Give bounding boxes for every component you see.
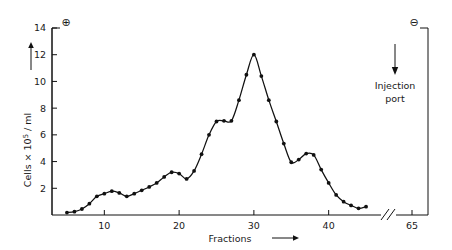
y-axis-title-prefix: Cells × 10	[22, 138, 33, 187]
cathode-symbol-group: ⊖	[409, 16, 418, 29]
data-point	[274, 120, 278, 124]
data-point	[267, 98, 271, 102]
data-point	[357, 206, 361, 210]
data-point	[364, 205, 368, 209]
y-tick-label: 8	[40, 103, 46, 114]
y-tick-label: 12	[34, 49, 46, 60]
data-point	[185, 177, 189, 181]
data-point	[237, 98, 241, 102]
y-tick-label: 14	[34, 22, 46, 33]
data-point	[342, 200, 346, 204]
data-point	[200, 152, 204, 156]
x-tick-label: 30	[248, 220, 260, 231]
data-point	[132, 192, 136, 196]
injection-port-label-line2: port	[385, 93, 405, 104]
data-point	[289, 160, 293, 164]
data-point	[319, 168, 323, 172]
data-point	[140, 188, 144, 192]
x-axis-title: Fractions	[209, 233, 252, 244]
data-point	[252, 53, 256, 57]
y-tick-label: 4	[40, 156, 46, 167]
data-point	[155, 181, 159, 185]
data-point	[110, 189, 114, 193]
figure-container: 2468101214 1020304065 Cells × 105 / ml F…	[0, 0, 452, 250]
data-point	[170, 170, 174, 174]
data-point	[230, 119, 234, 123]
x-tick-label-break: 65	[406, 220, 418, 231]
data-point	[125, 194, 129, 198]
anode-symbol-group: ⊕	[61, 16, 70, 29]
data-point	[259, 74, 263, 78]
data-point	[334, 193, 338, 197]
data-point	[222, 119, 226, 123]
data-point	[245, 73, 249, 77]
y-tick-label: 6	[40, 129, 46, 140]
data-point	[95, 194, 99, 198]
cell-elution-profile-chart: 2468101214 1020304065 Cells × 105 / ml F…	[0, 0, 452, 250]
x-tick-label: 40	[323, 220, 335, 231]
data-point	[80, 207, 84, 211]
data-point	[327, 181, 331, 185]
cathode-symbol: ⊖	[409, 16, 418, 29]
data-point	[87, 202, 91, 206]
data-point	[215, 120, 219, 124]
data-point	[207, 133, 211, 137]
data-point	[312, 153, 316, 157]
data-point	[102, 192, 106, 196]
y-tick-label: 2	[40, 183, 46, 194]
data-point	[192, 169, 196, 173]
data-point	[65, 211, 69, 215]
data-point	[177, 172, 181, 176]
data-point	[282, 142, 286, 146]
data-point	[147, 185, 151, 189]
data-point	[297, 158, 301, 162]
data-point	[349, 203, 353, 207]
x-tick-label: 10	[98, 220, 110, 231]
y-tick-label: 10	[34, 76, 46, 87]
data-point	[117, 191, 121, 195]
data-point	[162, 175, 166, 179]
y-axis-title: Cells × 105 / ml	[22, 113, 34, 187]
data-point	[73, 210, 77, 214]
data-point	[304, 152, 308, 156]
x-tick-label: 20	[173, 220, 185, 231]
y-axis-title-suffix: / ml	[22, 113, 33, 134]
injection-port-label-line1: Injection	[375, 80, 416, 91]
anode-symbol: ⊕	[61, 16, 70, 29]
